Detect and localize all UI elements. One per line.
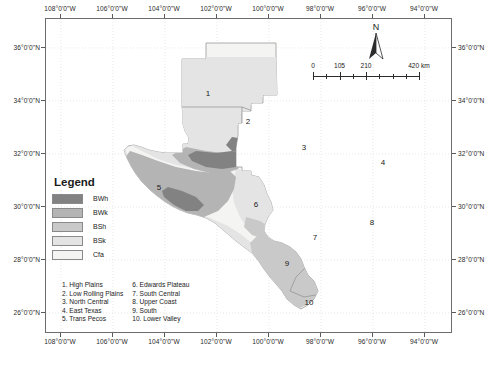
region-list-item: 5. Trans Pecos xyxy=(62,315,123,324)
region-list-item: 4. East Texas xyxy=(62,307,123,316)
scalebar-tick-minor xyxy=(353,74,354,80)
region-list-item: 9. South xyxy=(132,307,189,316)
graticule-tick xyxy=(452,206,456,207)
graticule-tick xyxy=(41,312,45,313)
scalebar-tick-minor xyxy=(326,74,327,80)
legend-swatch xyxy=(52,222,83,232)
graticule-tick xyxy=(216,14,217,18)
scalebar-label: 0 xyxy=(311,62,315,69)
region-list-item: 7. South Central xyxy=(132,290,189,299)
legend-label: BSk xyxy=(93,237,106,244)
graticule-tick xyxy=(41,153,45,154)
scalebar-label: 210 xyxy=(360,62,371,69)
graticule-tick xyxy=(268,333,269,337)
longitude-label-top: 102°0'0"W xyxy=(200,5,232,12)
longitude-label-top: 94°0'0"W xyxy=(410,5,438,12)
graticule-tick xyxy=(60,333,61,337)
graticule-tick xyxy=(372,333,373,337)
scalebar-label: 105 xyxy=(334,62,345,69)
region-number-label: 10 xyxy=(305,298,314,307)
graticule-tick xyxy=(112,333,113,337)
latitude-label-right: 32°0'0"N xyxy=(458,150,484,157)
region-list-item: 2. Low Rolling Plains xyxy=(62,290,123,299)
longitude-label-bottom: 104°0'0"W xyxy=(148,338,180,345)
legend-item: BSk xyxy=(52,234,172,247)
region-number-label: 9 xyxy=(285,259,289,268)
graticule-tick xyxy=(41,259,45,260)
region-number-label: 4 xyxy=(381,158,385,167)
legend-item: BSh xyxy=(52,220,172,233)
graticule-tick xyxy=(452,259,456,260)
legend-label: Cfa xyxy=(93,251,104,258)
legend-swatch xyxy=(52,250,83,260)
scalebar-tick-minor xyxy=(406,74,407,80)
region-number-label: 3 xyxy=(302,143,306,152)
graticule-tick xyxy=(216,333,217,337)
graticule-tick xyxy=(164,333,165,337)
legend-item: Cfa xyxy=(52,248,172,261)
graticule-tick xyxy=(41,206,45,207)
latitude-label-right: 36°0'0"N xyxy=(458,44,484,51)
scalebar-graphic xyxy=(313,72,433,80)
north-arrow-icon xyxy=(363,32,389,60)
scalebar-labels: 0105210420 km xyxy=(313,62,433,71)
longitude-label-bottom: 94°0'0"W xyxy=(410,338,438,345)
scalebar: 0105210420 km xyxy=(313,62,433,80)
legend-label: BWk xyxy=(93,209,108,216)
region-list-column-2: 6. Edwards Plateau7. South Central8. Upp… xyxy=(132,281,189,324)
legend-swatch xyxy=(52,236,83,246)
graticule-tick xyxy=(320,333,321,337)
graticule-tick xyxy=(41,47,45,48)
scalebar-label: 420 km xyxy=(408,62,430,69)
legend-item: BWk xyxy=(52,206,172,219)
graticule-tick xyxy=(452,47,456,48)
region-name-list: 1. High Plains2. Low Rolling Plains3. No… xyxy=(62,281,189,324)
scalebar-tick-major xyxy=(419,72,420,80)
region-list-item: 8. Upper Coast xyxy=(132,298,189,307)
graticule-tick xyxy=(452,100,456,101)
longitude-label-top: 104°0'0"W xyxy=(148,5,180,12)
legend-swatch xyxy=(52,208,83,218)
scalebar-tick-major xyxy=(366,72,367,80)
latitude-label-right: 28°0'0"N xyxy=(458,256,484,263)
scalebar-tick-major xyxy=(340,72,341,80)
graticule-tick xyxy=(60,14,61,18)
graticule-tick xyxy=(452,312,456,313)
longitude-label-top: 98°0'0"W xyxy=(306,5,334,12)
region-number-label: 1 xyxy=(206,89,210,98)
legend-swatch xyxy=(52,194,83,204)
longitude-label-bottom: 106°0'0"W xyxy=(96,338,128,345)
region-list-item: 1. High Plains xyxy=(62,281,123,290)
latitude-label-right: 30°0'0"N xyxy=(458,203,484,210)
graticule-tick xyxy=(372,14,373,18)
north-arrow: N xyxy=(363,22,389,64)
legend-label: BWh xyxy=(93,195,108,202)
longitude-label-bottom: 96°0'0"W xyxy=(358,338,386,345)
graticule-tick xyxy=(320,14,321,18)
region-list-item: 10. Lower Valley xyxy=(132,315,189,324)
longitude-label-bottom: 102°0'0"W xyxy=(200,338,232,345)
graticule-tick xyxy=(268,14,269,18)
north-arrow-label: N xyxy=(363,22,389,32)
region-number-label: 2 xyxy=(246,117,250,126)
longitude-label-bottom: 98°0'0"W xyxy=(306,338,334,345)
latitude-label-left: 36°0'0"N xyxy=(2,44,40,51)
latitude-label-right: 26°0'0"N xyxy=(458,309,484,316)
longitude-label-top: 100°0'0"W xyxy=(252,5,284,12)
legend-items: BWhBWkBShBSkCfa xyxy=(52,192,172,261)
scalebar-tick-minor xyxy=(379,74,380,80)
latitude-label-left: 26°0'0"N xyxy=(2,309,40,316)
legend-label: BSh xyxy=(93,223,106,230)
graticule-tick xyxy=(164,14,165,18)
latitude-label-left: 34°0'0"N xyxy=(2,97,40,104)
longitude-label-top: 96°0'0"W xyxy=(358,5,386,12)
graticule-tick xyxy=(41,100,45,101)
latitude-label-right: 34°0'0"N xyxy=(458,97,484,104)
scalebar-tick-minor xyxy=(393,74,394,80)
legend-item: BWh xyxy=(52,192,172,205)
graticule-tick xyxy=(424,333,425,337)
longitude-label-bottom: 100°0'0"W xyxy=(252,338,284,345)
map-screenshot: 12345678910 108°0'0"W106°0'0"W104°0'0"W1… xyxy=(0,0,494,368)
latitude-label-left: 30°0'0"N xyxy=(2,203,40,210)
longitude-label-top: 106°0'0"W xyxy=(96,5,128,12)
